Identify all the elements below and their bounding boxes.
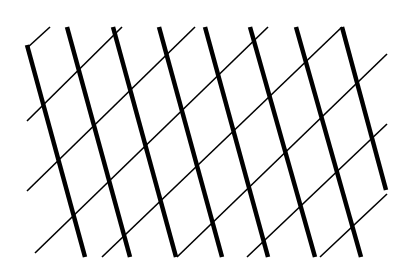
crosshatch-pattern — [0, 0, 406, 270]
thin-lines — [27, 27, 387, 257]
thick-lines — [27, 27, 386, 257]
thin-line-3 — [27, 27, 195, 191]
thin-line-2 — [27, 27, 122, 121]
thin-line-1 — [27, 27, 50, 48]
thin-line-4 — [35, 27, 268, 253]
thin-line-7 — [247, 124, 387, 257]
thick-line-1 — [27, 45, 85, 257]
thick-line-8 — [342, 27, 386, 190]
line-pattern-canvas — [0, 0, 406, 270]
